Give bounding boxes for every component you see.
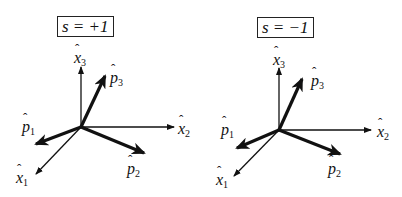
- label-x1: ˆx1: [216, 172, 228, 193]
- axis-x1: [234, 130, 279, 176]
- label-x3: ˆx3: [74, 50, 86, 71]
- vector-p1: [36, 127, 81, 144]
- panel-s-minus-one: s = −1 ˆx3 ˆp3 ˆp1 ˆx2 ˆp2 ˆx1: [201, 0, 402, 197]
- vector-p3: [279, 79, 302, 130]
- label-p1: ˆp1: [22, 119, 35, 140]
- label-p3: ˆp3: [110, 70, 123, 91]
- sign-label-box: s = +1: [57, 16, 114, 37]
- label-x3: ˆx3: [273, 52, 285, 73]
- sign-label-box: s = −1: [257, 17, 314, 38]
- vector-p1: [237, 130, 279, 148]
- label-x2: ˆx2: [178, 121, 190, 142]
- vector-p2: [279, 130, 340, 154]
- label-x1: ˆx1: [16, 170, 28, 191]
- label-p2: ˆp2: [127, 161, 140, 182]
- sign-label: s = −1: [262, 18, 309, 37]
- label-p2: ˆp2: [328, 161, 341, 182]
- panel-s-plus-one: s = +1 ˆx3 ˆp3 ˆp1 ˆx2 ˆp2 ˆx1: [0, 0, 201, 197]
- vector-p3: [81, 76, 105, 127]
- vector-p2: [81, 127, 144, 153]
- label-p3: ˆp3: [311, 73, 324, 94]
- label-p1: ˆp1: [221, 122, 234, 143]
- label-x2: ˆx2: [377, 124, 389, 145]
- sign-label: s = +1: [62, 17, 109, 36]
